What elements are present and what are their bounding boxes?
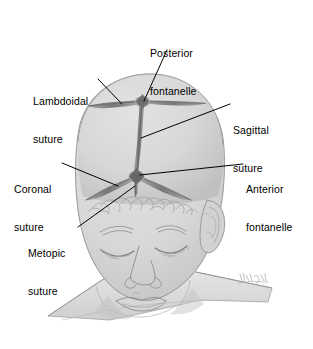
label-line: Lambdoidal [33,95,88,108]
label-lambdoidal-suture: Lambdoidal suture [33,70,88,170]
label-line: Anterior [246,183,293,196]
ear [200,200,225,253]
label-posterior-fontanelle: Posterior fontanelle [150,22,197,122]
label-line: Posterior [150,47,197,60]
label-line: fontanelle [246,221,293,234]
label-line: fontanelle [150,85,197,98]
label-line: suture [33,133,88,146]
label-line: Coronal [14,183,51,196]
label-metopic-suture: Metopic suture [28,222,65,322]
label-anterior-fontanelle: Anterior fontanelle [246,158,293,258]
figure-container: Posterior fontanelle Lambdoidal suture S… [0,0,313,349]
label-line: Sagittal [233,124,269,137]
label-line: suture [28,285,65,298]
label-line: Metopic [28,247,65,260]
